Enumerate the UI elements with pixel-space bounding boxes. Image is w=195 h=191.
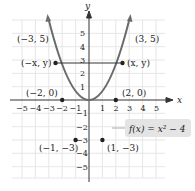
svg-text:2: 2 (80, 69, 85, 78)
svg-text:−4: −4 (30, 104, 42, 113)
label-1-neg3: (1, −3) (107, 143, 139, 153)
svg-text:−5: −5 (16, 104, 28, 113)
graph-canvas: x y −5 −4 −3 −2 −1 1 2 3 4 5 5 4 3 2 1 −… (0, 0, 195, 191)
svg-text:−2: −2 (76, 123, 88, 132)
label-negx-y: (−x, y) (21, 58, 51, 68)
svg-text:1: 1 (80, 83, 85, 92)
label-neg1-neg3: (−1, −3) (39, 143, 78, 153)
svg-text:4: 4 (80, 43, 85, 52)
label-x-y: (x, y) (127, 58, 150, 68)
function-label-box: f(x) = x² − 4 (112, 119, 191, 137)
svg-text:−3: −3 (43, 104, 55, 113)
svg-text:−2: −2 (56, 104, 68, 113)
label-3-5: (3, 5) (135, 34, 159, 44)
svg-text:−1: −1 (76, 109, 88, 118)
svg-text:5: 5 (154, 104, 159, 113)
label-neg2-0: (−2, 0) (26, 88, 58, 98)
function-label: f(x) = x² − 4 (128, 124, 186, 134)
parabola-diagram: x y −5 −4 −3 −2 −1 1 2 3 4 5 5 4 3 2 1 −… (0, 0, 195, 191)
label-2-0: (2, 0) (122, 88, 146, 98)
x-axis-label: x (177, 95, 182, 105)
svg-text:−5: −5 (76, 163, 88, 172)
svg-text:4: 4 (141, 104, 146, 113)
svg-text:1: 1 (100, 104, 105, 113)
svg-text:5: 5 (80, 29, 85, 38)
svg-text:3: 3 (127, 104, 132, 113)
svg-text:3: 3 (80, 56, 85, 65)
y-axis-label: y (84, 1, 91, 11)
svg-text:2: 2 (114, 104, 119, 113)
label-neg3-5: (−3, 5) (17, 34, 49, 44)
